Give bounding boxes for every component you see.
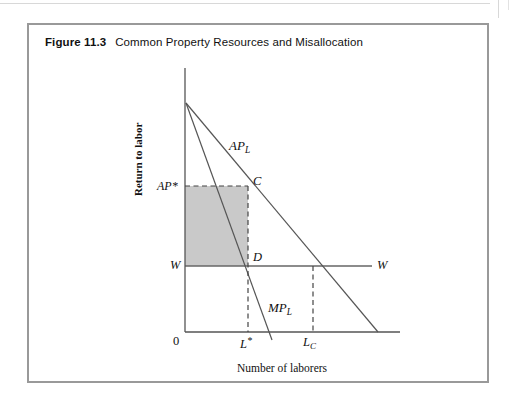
page-edge-line-right-secondary	[508, 0, 509, 10]
page-edge-line-right	[498, 0, 499, 18]
figure-caption: Common Property Resources and Misallocat…	[115, 36, 363, 48]
x-tick-label-lc: LC	[303, 335, 316, 351]
point-label-d: D	[253, 250, 262, 265]
curve-label-average-product: APL	[229, 138, 250, 155]
curve-label-apl-base: AP	[229, 138, 245, 153]
figure-title: Figure 11.3Common Property Resources and…	[45, 36, 363, 48]
x-axis-title: Number of laborers	[237, 362, 327, 374]
curve-label-mpl-subscript: L	[287, 307, 292, 317]
figure-page: Figure 11.3Common Property Resources and…	[0, 0, 519, 409]
curve-label-marginal-product: MPL	[268, 300, 292, 317]
point-label-c: C	[253, 174, 261, 189]
x-tick-label-origin: 0	[173, 334, 179, 349]
page-edge-line-top	[0, 3, 490, 4]
x-tick-label-l-star: L*	[240, 335, 252, 352]
wage-line-label-right: W	[377, 258, 387, 273]
curve-label-mpl-base: MP	[268, 300, 287, 315]
figure-number: Figure 11.3	[45, 36, 106, 48]
y-tick-label-ap-star: AP*	[157, 179, 178, 194]
y-axis-title: Return to labor	[132, 123, 144, 196]
curve-label-apl-subscript: L	[245, 145, 250, 155]
figure-frame	[27, 23, 489, 383]
y-tick-label-wage: W	[170, 258, 180, 273]
